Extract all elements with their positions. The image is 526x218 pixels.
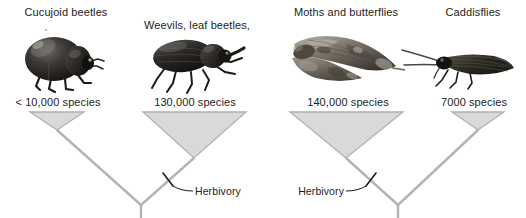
beetle-cucujoid-photo: [18, 26, 110, 96]
herbivory-leader-left: [173, 186, 193, 191]
branch-caddisflies: [398, 130, 478, 205]
wedge-cucujoid: [30, 112, 84, 130]
clade-heading-caddisflies: Caddisflies: [420, 6, 526, 19]
moth-photo: [288, 24, 406, 96]
caddisfly-photo: [398, 32, 516, 94]
herbivory-tick-right: [366, 173, 376, 186]
count-label-moths: 140,000 species: [292, 96, 404, 108]
herbivory-label-left: Herbivory: [195, 186, 241, 197]
herbivory-label-right: Herbivory: [292, 186, 344, 197]
clade-heading-weevils-line1: Weevils, leaf beetles,: [144, 19, 250, 31]
tree-lepidoptera: [290, 112, 504, 218]
count-label-cucujoid: < 10,000 species: [2, 96, 114, 108]
branch-moths: [346, 158, 398, 205]
herbivory-tick-left: [163, 173, 173, 186]
wedge-caddisflies: [452, 112, 504, 130]
tree-beetles: [30, 112, 246, 218]
clade-heading-moths: Moths and butterflies: [280, 6, 412, 19]
phylogeny-figure: Cucujoid beetles Weevils, leaf beetles, …: [0, 0, 526, 218]
count-label-weevils: 130,000 species: [139, 96, 251, 108]
clade-heading-cucujoid: Cucujoid beetles: [0, 6, 132, 19]
herbivory-leader-right: [346, 186, 366, 191]
branch-weevils: [141, 158, 194, 205]
wedge-moths: [290, 112, 403, 158]
weevil-photo: [143, 30, 255, 96]
branch-cucujoid: [57, 130, 141, 205]
wedge-weevils: [143, 112, 246, 158]
count-label-caddisflies: 7000 species: [424, 96, 524, 108]
